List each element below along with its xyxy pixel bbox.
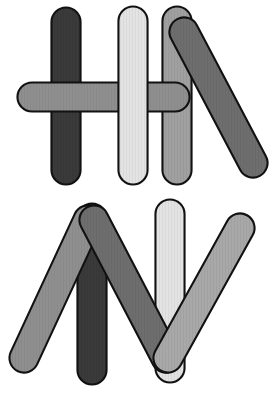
image-canvas: Dark vertical stick (left)Medium gray ve… — [0, 0, 277, 397]
sticks-illustration: Dark vertical stick (left)Medium gray ve… — [0, 0, 277, 397]
